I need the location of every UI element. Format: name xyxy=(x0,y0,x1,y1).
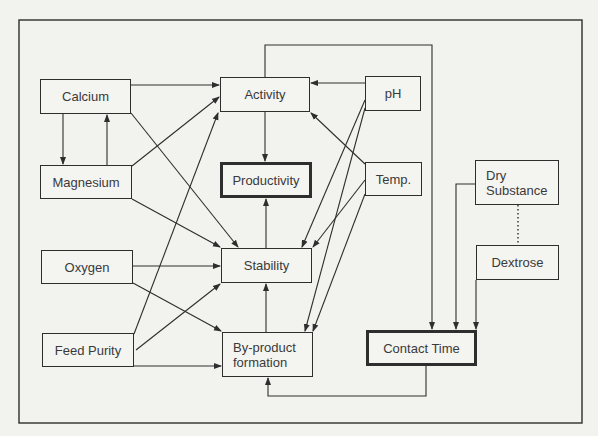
node-calcium: Calcium xyxy=(40,79,131,114)
node-label: pH xyxy=(385,86,402,101)
node-label: Feed Purity xyxy=(55,343,121,358)
node-label: Contact Time xyxy=(383,341,460,356)
edge-drysubstance-contacttime xyxy=(456,184,475,329)
node-dextrose: Dextrose xyxy=(476,245,559,280)
node-productivity: Productivity xyxy=(220,162,312,198)
node-oxygen: Oxygen xyxy=(41,250,133,284)
edge-temp-byproduct xyxy=(313,194,365,331)
node-dry-substance: Dry Substance xyxy=(475,160,559,205)
node-label: Dextrose xyxy=(491,255,543,270)
edge-feedpurity-stability xyxy=(136,284,220,350)
node-label: Stability xyxy=(244,258,290,273)
node-ph: pH xyxy=(365,76,421,111)
node-contact-time: Contact Time xyxy=(366,330,477,366)
node-temp: Temp. xyxy=(365,162,422,196)
node-label: Temp. xyxy=(376,172,411,187)
node-label: Productivity xyxy=(232,173,299,188)
node-label: Dry Substance xyxy=(486,168,547,198)
node-label: Activity xyxy=(244,87,285,102)
node-activity: Activity xyxy=(220,77,310,112)
node-magnesium: Magnesium xyxy=(40,165,132,199)
node-label: By-product formation xyxy=(233,340,296,370)
node-stability: Stability xyxy=(221,248,312,283)
edge-magnesium-activity xyxy=(132,97,219,166)
edge-oxygen-byproduct xyxy=(133,283,221,331)
edge-feedpurity-activity xyxy=(134,113,218,334)
influence-diagram: Calcium Magnesium Oxygen Feed Purity Act… xyxy=(0,0,598,436)
node-feed-purity: Feed Purity xyxy=(42,333,134,367)
node-label: Oxygen xyxy=(65,260,110,275)
node-label: Magnesium xyxy=(52,175,119,190)
node-label: Calcium xyxy=(62,89,109,104)
node-byproduct-formation: By-product formation xyxy=(222,332,313,377)
